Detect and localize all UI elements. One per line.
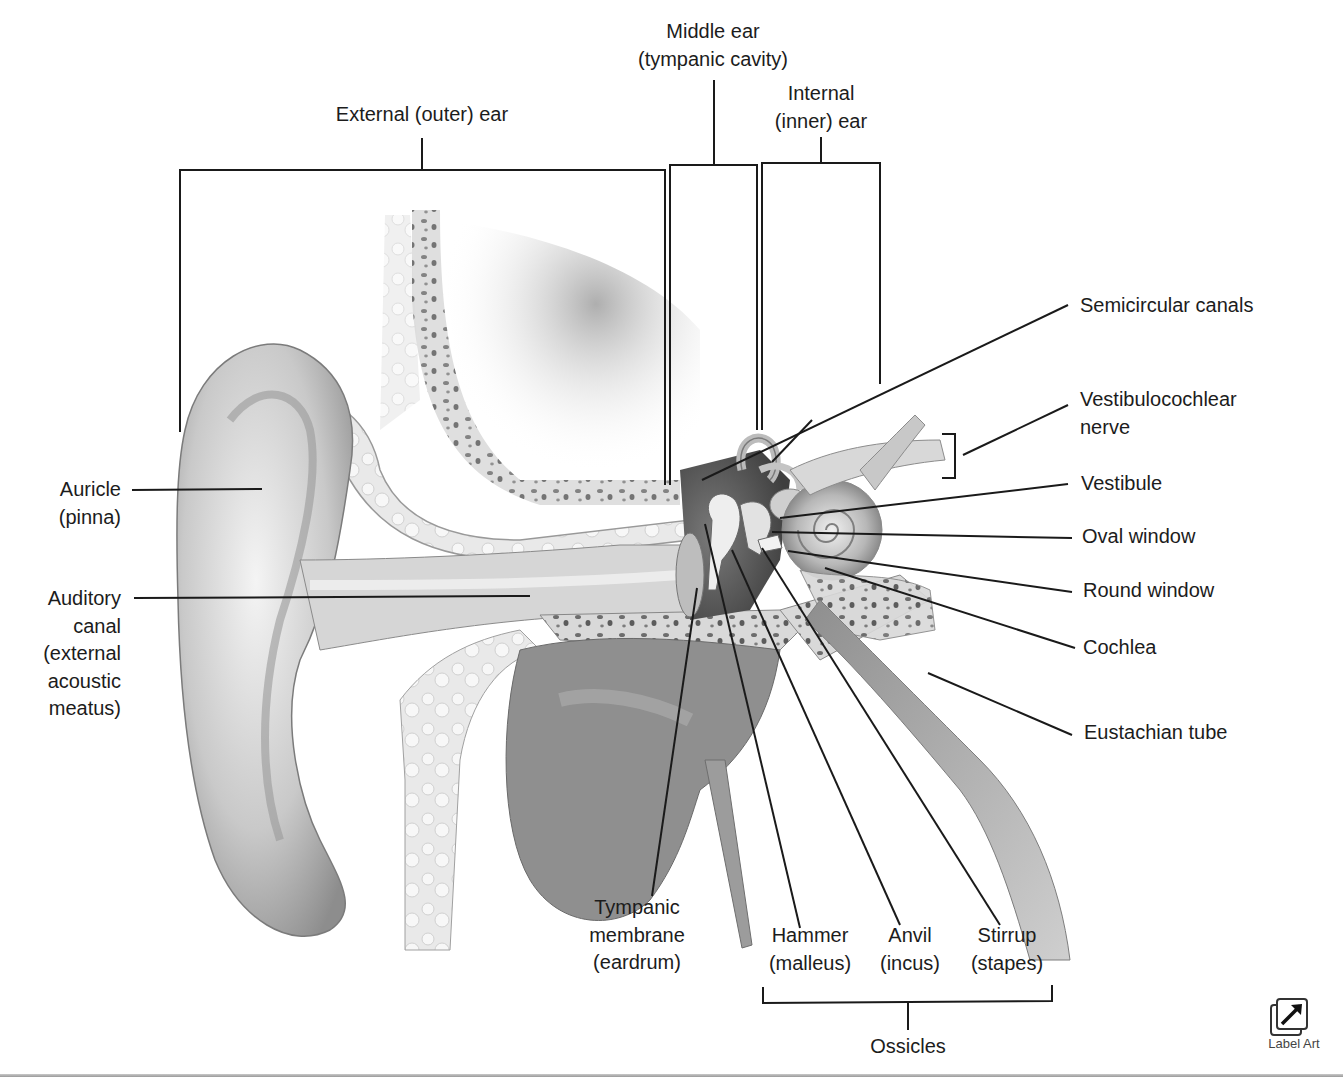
label-tympanic-membrane: Tympanic membrane (eardrum) [589,894,685,977]
label-text: Anvil [880,922,940,950]
label-auditory-canal: Auditory canal (external acoustic meatus… [43,585,121,723]
label-cochlea: Cochlea [1083,634,1156,662]
label-text: acoustic [43,668,121,696]
label-text: Stirrup [971,922,1043,950]
label-text: (stapes) [971,950,1043,978]
label-ossicles: Ossicles [870,1033,946,1061]
ear-anatomy-diagram: External (outer) ear Middle ear (tympani… [0,0,1343,1081]
label-text: (external [43,640,121,668]
label-art-button[interactable]: Label Art [1258,996,1330,1058]
label-text: Internal [775,80,867,108]
label-text: (incus) [880,950,940,978]
label-external-ear: External (outer) ear [336,101,508,129]
label-text: (pinna) [59,504,121,532]
label-art-caption: Label Art [1258,1036,1330,1051]
arrow-out-icon [1258,996,1330,1038]
label-internal-ear: Internal (inner) ear [775,80,867,135]
label-eustachian-tube: Eustachian tube [1084,719,1227,747]
label-oval-window: Oval window [1082,523,1195,551]
label-vestibule: Vestibule [1081,470,1162,498]
label-text: Hammer [769,922,851,950]
label-round-window: Round window [1083,577,1214,605]
label-text: Semicircular canals [1080,292,1253,320]
label-semicircular-canals: Semicircular canals [1080,292,1253,320]
label-anvil: Anvil (incus) [880,922,940,977]
label-text: External (outer) ear [336,101,508,129]
label-auricle: Auricle (pinna) [59,476,121,531]
label-text: Vestibule [1081,470,1162,498]
label-text: Round window [1083,577,1214,605]
label-text: meatus) [43,695,121,723]
label-middle-ear: Middle ear (tympanic cavity) [638,18,788,73]
middle-ear-bracket [670,165,757,485]
label-text: (tympanic cavity) [638,46,788,74]
label-text: Oval window [1082,523,1195,551]
label-text: Eustachian tube [1084,719,1227,747]
label-text: (inner) ear [775,108,867,136]
label-text: Vestibulocochlear [1080,386,1237,414]
label-text: Ossicles [870,1033,946,1061]
label-text: Tympanic [589,894,685,922]
label-text: (eardrum) [589,949,685,977]
label-vestibulocochlear-nerve: Vestibulocochlear nerve [1080,386,1237,441]
label-text: canal [43,613,121,641]
label-text: (malleus) [769,950,851,978]
label-text: Middle ear [638,18,788,46]
label-hammer: Hammer (malleus) [769,922,851,977]
bottom-divider [0,1074,1343,1077]
label-text: nerve [1080,414,1237,442]
label-text: membrane [589,922,685,950]
external-ear-bracket [180,170,665,485]
internal-ear-bracket [762,163,880,430]
label-text: Cochlea [1083,634,1156,662]
label-stirrup: Stirrup (stapes) [971,922,1043,977]
label-text: Auditory [43,585,121,613]
label-text: Auricle [59,476,121,504]
